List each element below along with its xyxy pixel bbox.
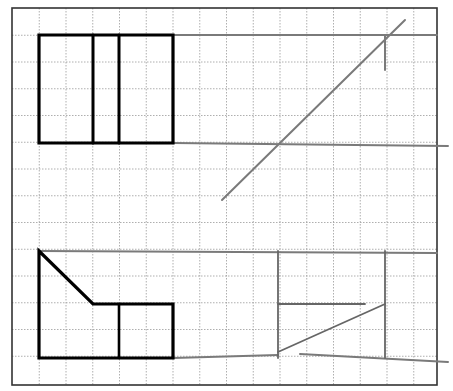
- drawing-sheet: [0, 0, 453, 391]
- construction-line: [222, 20, 405, 200]
- construction-line: [300, 354, 448, 362]
- construction-line: [173, 143, 448, 146]
- construction-line: [39, 251, 437, 253]
- side-view: [278, 251, 385, 358]
- front-view: [39, 251, 173, 358]
- side-view-line: [278, 304, 385, 352]
- front-view-outline: [39, 251, 173, 358]
